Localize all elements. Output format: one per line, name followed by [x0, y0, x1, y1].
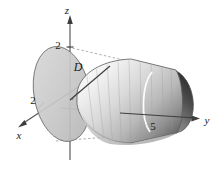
- z-tick-label: 2: [55, 39, 61, 51]
- figure-canvas: z 2 x 2 y 5 D: [0, 0, 217, 183]
- region-D-label: D: [73, 60, 83, 74]
- x-axis-label: x: [16, 129, 22, 141]
- y-tick-label: 5: [150, 120, 156, 132]
- y-axis-label: y: [204, 114, 210, 126]
- z-axis-label: z: [64, 4, 70, 16]
- x-tick-label: 2: [30, 94, 36, 106]
- z-axis-arrowhead: [67, 15, 73, 24]
- cone-solid: [72, 59, 198, 146]
- math-figure-container: z 2 x 2 y 5 D: [0, 0, 217, 183]
